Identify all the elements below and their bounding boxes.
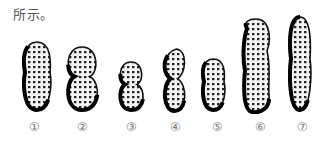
label-3: ③ (123, 119, 139, 135)
label-7: ⑦ (294, 119, 310, 135)
peanut-pod-7 (288, 15, 312, 112)
label-2: ② (74, 119, 90, 135)
label-5: ⑤ (209, 119, 225, 135)
peanut-pod-3 (116, 60, 146, 112)
label-6: ⑥ (252, 119, 268, 135)
peanut-pod-4 (161, 47, 188, 113)
label-4: ④ (167, 119, 183, 135)
peanut-pod-6 (241, 17, 271, 114)
label-1: ① (26, 119, 42, 135)
peanut-pod-5 (201, 57, 226, 112)
peanut-pod-2 (63, 45, 101, 112)
caption-text: 所示。 (13, 4, 54, 23)
peanut-pod-1 (22, 40, 52, 112)
